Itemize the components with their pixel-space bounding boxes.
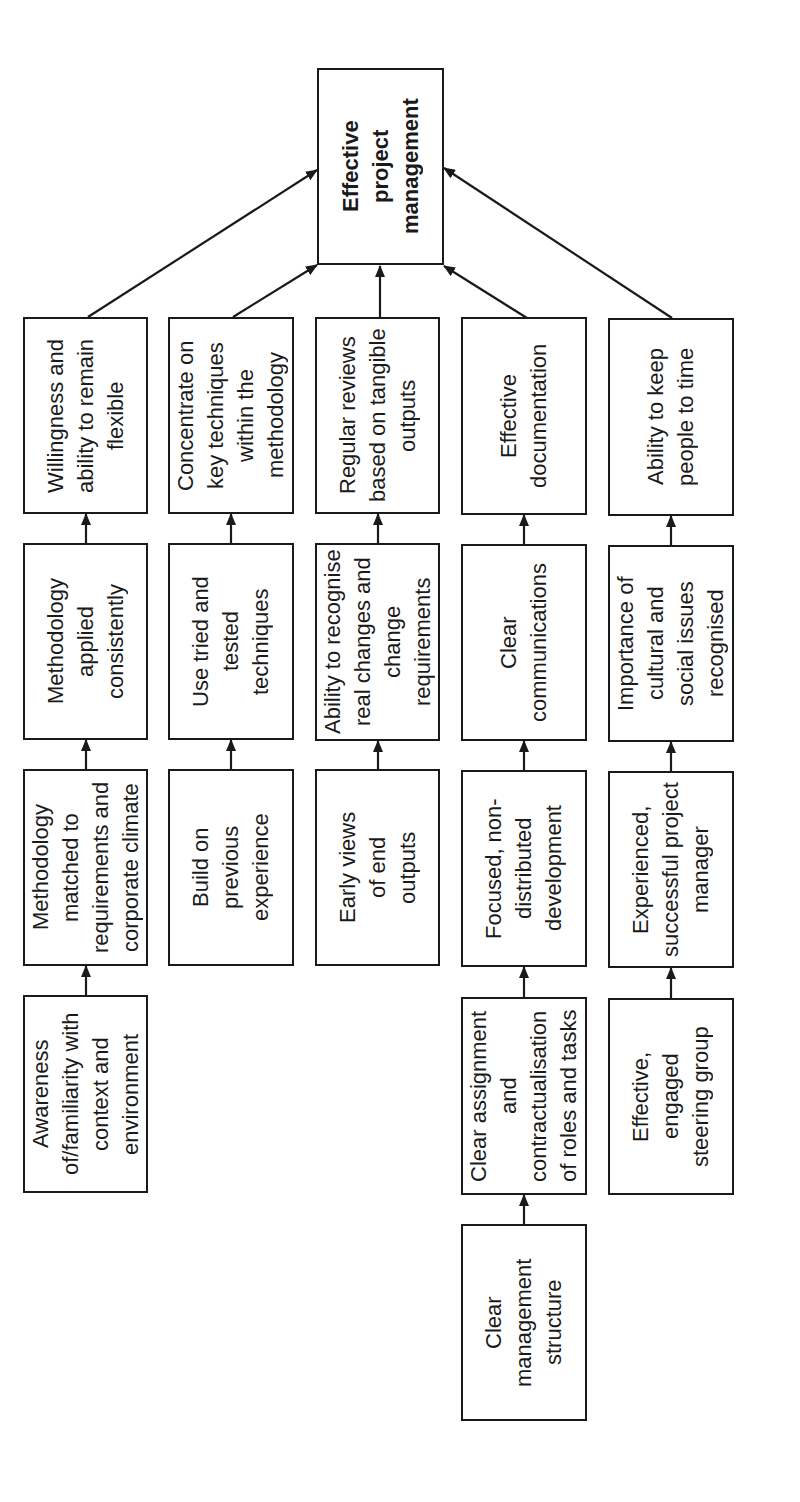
label-line: techniques [246, 545, 276, 738]
node-label: Experienced, successful project manager [626, 773, 716, 966]
node-label: Ability to keep people to time [641, 320, 701, 514]
label-line: change [378, 545, 408, 739]
label-line: previous [216, 771, 246, 964]
label-line: real changes and [348, 545, 378, 739]
label-line: ability to remain [71, 319, 101, 512]
node-early-views-outputs: Early views of end outputs [315, 769, 440, 966]
label-line: management [396, 70, 426, 263]
node-effective-project-management: Effective project management [317, 68, 444, 265]
label-line: structure [539, 1226, 569, 1419]
node-methodology-applied: Methodology applied consistently [23, 543, 148, 740]
node-effective-documentation: Effective documentation [461, 317, 587, 515]
label-line: environment [116, 997, 146, 1191]
label-line: within the [231, 319, 261, 512]
node-awareness-context: Awareness of/familiarity with context an… [23, 995, 148, 1193]
node-focused-development: Focused, non- distributed development [461, 770, 587, 967]
node-label: Effective documentation [494, 319, 554, 513]
label-line: Willingness and [41, 319, 71, 512]
node-experienced-project-manager: Experienced, successful project manager [608, 771, 734, 968]
node-recognise-real-changes: Ability to recognise real changes and ch… [315, 543, 440, 741]
label-line: Clear assignment [464, 999, 494, 1193]
arrow [444, 266, 527, 318]
label-line: consistently [101, 545, 131, 738]
label-line: Early views [333, 771, 363, 964]
node-label: Importance of cultural and social issues… [611, 547, 731, 740]
node-tried-tested-techniques: Use tried and tested techniques [168, 543, 294, 740]
arrow [233, 265, 317, 317]
node-build-on-experience: Build on previous experience [168, 769, 294, 966]
node-label: Effective, engaged steering group [626, 1000, 716, 1193]
label-line: matched to [56, 771, 86, 964]
label-line: contractualisation [524, 999, 554, 1193]
label-line: Effective [336, 70, 366, 263]
label-line: key techniques [201, 319, 231, 512]
node-label: Regular reviews based on tangible output… [333, 319, 423, 512]
label-line: experience [246, 771, 276, 964]
node-clear-assignment-roles: Clear assignment and contractualisation … [461, 997, 587, 1195]
node-label: Use tried and tested techniques [186, 545, 276, 738]
label-line: distributed [509, 772, 539, 965]
label-line: Clear [479, 1226, 509, 1419]
label-line: manager [686, 773, 716, 966]
node-label: Clear assignment and contractualisation … [464, 999, 584, 1193]
label-line: Importance of [611, 547, 641, 740]
label-line: corporate climate [116, 771, 146, 964]
label-line: Regular reviews [333, 319, 363, 512]
node-label: Concentrate on key techniques within the… [171, 319, 291, 512]
node-keep-people-to-time: Ability to keep people to time [608, 318, 734, 516]
node-label: Methodology applied consistently [41, 545, 131, 738]
node-label: Focused, non- distributed development [479, 772, 569, 965]
label-line: people to time [671, 320, 701, 514]
label-line: Methodology [41, 545, 71, 738]
label-line: applied [71, 545, 101, 738]
label-line: flexible [101, 319, 131, 512]
label-line: Effective, [626, 1000, 656, 1193]
node-label: Effective project management [336, 70, 426, 263]
label-line: of/familiarity with [56, 997, 86, 1191]
label-line: context and [86, 997, 116, 1191]
label-line: outputs [393, 771, 423, 964]
node-cultural-social-issues: Importance of cultural and social issues… [608, 545, 734, 742]
node-label: Methodology matched to requirements and … [26, 771, 146, 964]
arrow [444, 168, 672, 318]
diagram-canvas: Effective project management Willingness… [0, 0, 800, 1502]
node-label: Awareness of/familiarity with context an… [26, 997, 146, 1191]
node-clear-management-structure: Clear management structure [461, 1224, 587, 1421]
label-line: social issues [671, 547, 701, 740]
label-line: Effective [494, 319, 524, 513]
label-line: requirements [408, 545, 438, 739]
node-clear-communications: Clear communications [461, 544, 587, 741]
node-steering-group: Effective, engaged steering group [608, 998, 734, 1195]
label-line: Build on [186, 771, 216, 964]
label-line: Use tried and [186, 545, 216, 738]
arrow [88, 170, 317, 317]
label-line: and [494, 999, 524, 1193]
label-line: requirements and [86, 771, 116, 964]
label-line: management [509, 1226, 539, 1419]
label-line: methodology [261, 319, 291, 512]
node-willingness-flexible: Willingness and ability to remain flexib… [23, 317, 148, 514]
label-line: Experienced, [626, 773, 656, 966]
node-methodology-matched: Methodology matched to requirements and … [23, 769, 148, 966]
label-line: Focused, non- [479, 772, 509, 965]
node-label: Ability to recognise real changes and ch… [318, 545, 438, 739]
label-line: tested [216, 545, 246, 738]
label-line: Clear [494, 546, 524, 739]
label-line: recognised [701, 547, 731, 740]
label-line: of end [363, 771, 393, 964]
node-label: Build on previous experience [186, 771, 276, 964]
label-line: development [539, 772, 569, 965]
label-line: cultural and [641, 547, 671, 740]
node-label: Willingness and ability to remain flexib… [41, 319, 131, 512]
label-line: based on tangible [363, 319, 393, 512]
label-line: Awareness [26, 997, 56, 1191]
label-line: project [366, 70, 396, 263]
label-line: communications [524, 546, 554, 739]
label-line: engaged [656, 1000, 686, 1193]
label-line: Ability to recognise [318, 545, 348, 739]
node-concentrate-key-techniques: Concentrate on key techniques within the… [168, 317, 294, 514]
label-line: documentation [524, 319, 554, 513]
label-line: Concentrate on [171, 319, 201, 512]
label-line: outputs [393, 319, 423, 512]
label-line: steering group [686, 1000, 716, 1193]
